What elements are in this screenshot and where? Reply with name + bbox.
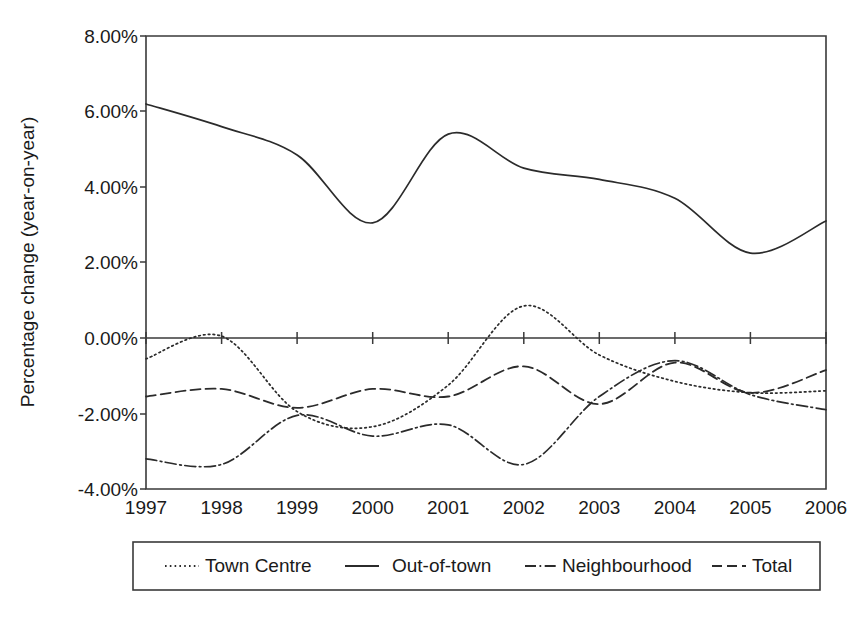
x-tick-label: 1997 [125, 497, 167, 518]
x-tick-label: 2006 [805, 497, 847, 518]
y-tick-label: 8.00% [84, 26, 138, 47]
x-tick-label: 2003 [578, 497, 620, 518]
y-axis-tick-labels: 8.00% 6.00% 4.00% 2.00% 0.00% -2.00% -4.… [78, 26, 138, 500]
y-tick-label: 4.00% [84, 177, 138, 198]
y-tick-label: 6.00% [84, 101, 138, 122]
series-line-town-centre [146, 305, 826, 428]
figure-root: Percentage change (year-on-year) 8.00% 6… [0, 0, 855, 624]
legend-label-out-of-town: Out-of-town [392, 555, 491, 576]
legend-items: Town CentreOut-of-townNeighbourhoodTotal [165, 555, 792, 576]
y-tick-label: 2.00% [84, 252, 138, 273]
y-axis-ticks [140, 36, 146, 489]
line-chart: Percentage change (year-on-year) 8.00% 6… [0, 0, 855, 624]
x-tick-label: 2001 [427, 497, 469, 518]
series-line-out-of-town [146, 104, 826, 253]
legend-label-town-centre: Town Centre [205, 555, 312, 576]
x-tick-label: 1998 [200, 497, 242, 518]
y-tick-label: 0.00% [84, 328, 138, 349]
y-tick-label: -2.00% [78, 404, 138, 425]
legend-label-neighbourhood: Neighbourhood [562, 555, 692, 576]
plot-frame [146, 36, 826, 489]
series-line-total [146, 362, 826, 407]
series-line-neighbourhood [146, 361, 826, 467]
x-axis-tick-labels: 1997199819992000200120022003200420052006 [125, 497, 847, 518]
x-tick-label: 1999 [276, 497, 318, 518]
x-tick-label: 2005 [729, 497, 771, 518]
series-layer [146, 104, 826, 467]
x-tick-label: 2002 [503, 497, 545, 518]
x-tick-label: 2004 [654, 497, 697, 518]
y-axis-label: Percentage change (year-on-year) [17, 117, 38, 407]
x-tick-label: 2000 [352, 497, 394, 518]
legend-label-total: Total [752, 555, 792, 576]
